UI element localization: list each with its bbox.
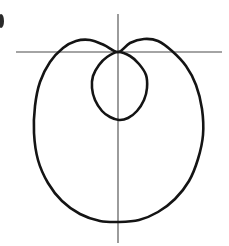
limacon-figure [0,0,229,246]
inner-loop-path [92,52,147,120]
curve-group [34,39,203,222]
axes-group [16,14,222,243]
outer-loop-path [34,39,203,222]
figure-canvas [0,0,229,246]
edge-ink-mark [0,14,4,28]
